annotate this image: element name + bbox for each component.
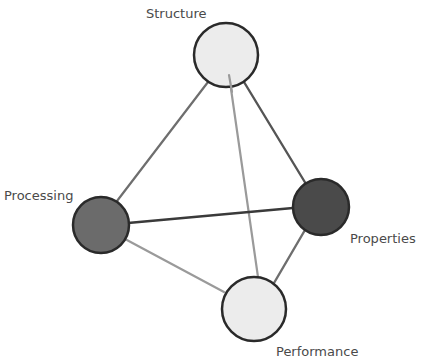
node-processing [73, 197, 129, 253]
edge-structure-processing [117, 82, 208, 201]
label-performance: Performance [276, 344, 358, 359]
edge-processing-properties [128, 208, 293, 223]
label-processing: Processing [4, 188, 73, 203]
nodes [73, 23, 349, 341]
edge-processing-performance [125, 239, 224, 292]
node-structure [194, 23, 258, 87]
edge-structure-performance [229, 75, 258, 277]
materials-tetrahedron-diagram: Structure Processing Properties Performa… [0, 0, 423, 363]
label-structure: Structure [146, 6, 206, 21]
edge-properties-performance [274, 230, 305, 283]
edge-structure-properties [244, 82, 306, 184]
node-performance [222, 277, 286, 341]
node-properties [293, 179, 349, 235]
edges [117, 75, 306, 292]
label-properties: Properties [350, 231, 416, 246]
